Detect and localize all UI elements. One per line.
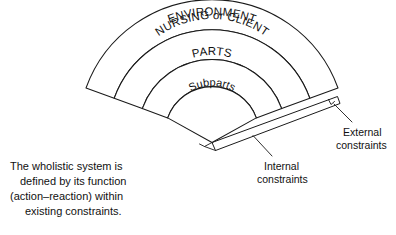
leader-line-internal: [253, 136, 272, 157]
leader-line-external: [334, 104, 352, 122]
slab-left-edge: [200, 144, 205, 147]
caption-line-1: The wholistic system is: [10, 160, 123, 172]
caption-line-4: existing constraints.: [25, 205, 122, 217]
fan-bands: [86, 0, 338, 142]
callout-external-line1: External: [343, 126, 382, 138]
caption-line-3: (action–reaction) within: [10, 190, 123, 202]
callout-internal-constraints: Internal constraints: [253, 136, 308, 186]
caption-line-2: defined by its function: [20, 175, 126, 187]
callout-internal-line1: Internal: [264, 160, 299, 172]
caption-block: The wholistic system is defined by its f…: [10, 160, 126, 217]
callout-external-line2: constraints: [336, 139, 387, 151]
wholistic-system-fan-diagram: ENVIRONMENT NURSING or CLIENT PARTS Subp…: [0, 0, 396, 235]
callout-internal-line2: constraints: [257, 173, 308, 185]
callout-external-constraints: External constraints: [334, 104, 387, 151]
